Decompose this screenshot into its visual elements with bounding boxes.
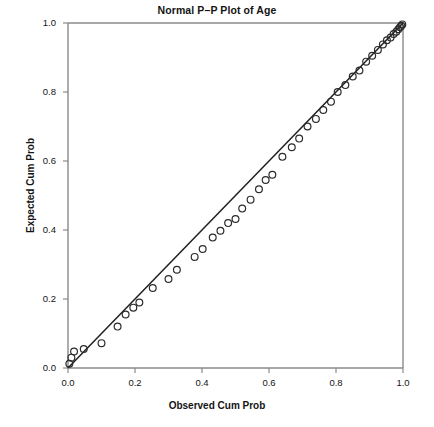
y-axis-title: Expected Cum Prob: [25, 96, 36, 276]
y-tick-label-0: 0.0: [16, 362, 56, 373]
x-tick-label-1: 0.2: [115, 377, 155, 388]
x-tick-label-0: 0.0: [48, 377, 88, 388]
data-point: [225, 220, 232, 227]
y-tick-label-4: 0.8: [16, 86, 56, 97]
data-point: [304, 123, 311, 130]
data-point: [256, 186, 263, 193]
reference-line: [68, 23, 403, 368]
data-point: [165, 276, 172, 283]
data-point: [191, 254, 198, 261]
y-tick-label-1: 0.2: [16, 293, 56, 304]
data-point: [130, 304, 137, 311]
data-point: [71, 348, 78, 355]
data-point: [279, 153, 286, 160]
x-tick-label-2: 0.4: [182, 377, 222, 388]
data-point: [98, 340, 105, 347]
data-point: [122, 311, 129, 318]
diagonal-reference-line: [68, 23, 403, 368]
data-point: [232, 216, 239, 223]
data-point: [288, 144, 295, 151]
data-point: [247, 196, 254, 203]
y-tick-label-3: 0.6: [16, 155, 56, 166]
data-point: [149, 285, 156, 292]
data-point: [239, 205, 246, 212]
y-tick-label-5: 1.0: [16, 17, 56, 28]
data-point: [173, 266, 180, 273]
data-point: [296, 135, 303, 142]
plot-canvas: [0, 0, 434, 427]
y-tick-label-2: 0.4: [16, 224, 56, 235]
data-point: [262, 177, 269, 184]
x-tick-label-3: 0.6: [249, 377, 289, 388]
data-point: [199, 246, 206, 253]
x-tick-label-4: 0.8: [316, 377, 356, 388]
data-point: [136, 299, 143, 306]
data-point: [320, 107, 327, 114]
normal-pp-plot: Normal P–P Plot of Age 0.00.20.40.60.81.…: [0, 0, 434, 427]
x-axis-title: Observed Cum Prob: [0, 400, 434, 411]
data-point: [209, 234, 216, 241]
data-point: [313, 116, 320, 123]
data-point: [114, 323, 121, 330]
data-point: [328, 98, 335, 105]
data-point: [269, 171, 276, 178]
x-tick-label-5: 1.0: [383, 377, 423, 388]
data-point: [217, 227, 224, 234]
